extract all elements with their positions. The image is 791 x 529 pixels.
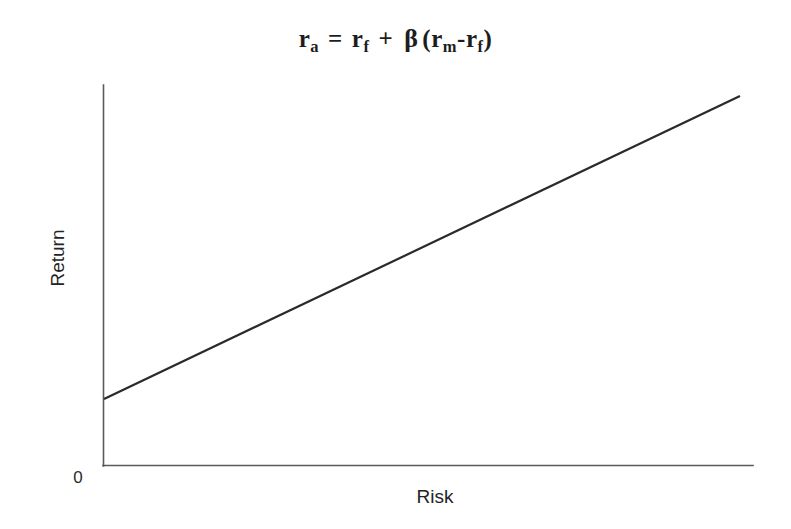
origin-label: 0: [73, 468, 82, 488]
x-axis-label: Risk: [417, 486, 454, 508]
security-market-line: [104, 96, 740, 399]
plot-area: [0, 0, 791, 529]
figure-canvas: ra=rf+β(rm-rf) Return Risk 0: [0, 0, 791, 529]
y-axis-label: Return: [47, 229, 69, 286]
